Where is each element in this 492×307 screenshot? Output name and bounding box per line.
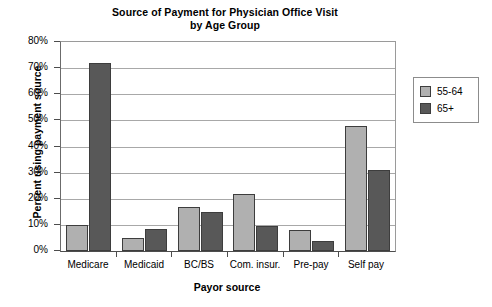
x-axis-tick-mark [283,251,284,257]
bar-pre-pay-55-64 [289,230,311,251]
x-axis-tick-mark [338,251,339,257]
bar-com-insur-65- [256,226,278,251]
legend-swatch-icon [420,86,431,97]
bar-bc-bs-65- [201,212,223,251]
bar-medicaid-55-64 [122,238,144,251]
bar-chart: Source of Payment for Physician Office V… [0,0,492,307]
x-axis-tick-label: Self pay [338,259,394,270]
x-axis-tick-label: Pre-pay [283,259,339,270]
x-axis-tick-mark [227,251,228,257]
bar-bc-bs-55-64 [178,207,200,251]
legend-label: 55-64 [437,86,463,97]
y-axis-tick-label: 40% [0,141,48,151]
legend: 55-6465+ [413,77,479,123]
plot-area [60,41,396,252]
bar-self-pay-55-64 [345,126,367,251]
y-axis-tick-label: 20% [0,193,48,203]
x-axis-tick-label: BC/BS [171,259,227,270]
gridline [61,68,395,69]
bar-com-insur-55-64 [233,194,255,251]
legend-swatch-icon [420,103,431,114]
legend-label: 65+ [437,103,454,114]
chart-title-line-2: by Age Group [60,19,390,32]
chart-title: Source of Payment for Physician Office V… [60,6,390,32]
bar-medicaid-65- [145,229,167,251]
bar-medicare-65- [89,63,111,251]
bar-medicare-55-64 [66,225,88,251]
chart-title-line-1: Source of Payment for Physician Office V… [112,6,338,18]
y-axis-tick-label: 30% [0,167,48,177]
y-axis-tick-label: 80% [0,36,48,46]
bar-self-pay-65- [368,170,390,251]
x-axis-tick-label: Medicaid [116,259,172,270]
x-axis-tick-label: Com. insur. [227,259,283,270]
y-axis-tick-label: 10% [0,219,48,229]
bar-pre-pay-65- [312,241,334,251]
y-axis-tick-label: 0% [0,245,48,255]
legend-item-65-: 65+ [420,100,473,117]
gridline [61,94,395,95]
x-axis-tick-mark [171,251,172,257]
gridline [61,120,395,121]
y-axis-tick-label: 70% [0,62,48,72]
x-axis-title: Payor source [60,281,394,293]
x-axis-tick-label: Medicare [60,259,116,270]
x-axis-tick-mark [116,251,117,257]
legend-item-55-64: 55-64 [420,83,473,100]
y-axis-tick-label: 60% [0,88,48,98]
y-axis-tick-label: 50% [0,114,48,124]
